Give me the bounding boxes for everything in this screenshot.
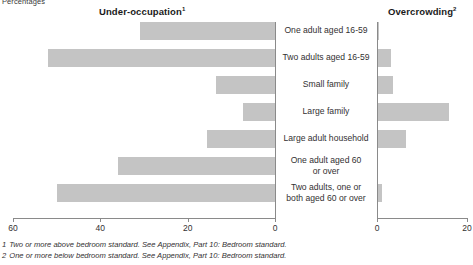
plot-area-under-occupation (13, 22, 275, 218)
axis-left-20-tick-label: 20 (183, 223, 192, 233)
axis-right-0-tick (377, 218, 378, 222)
bar-overcrowding[interactable] (377, 76, 393, 94)
bar-overcrowding[interactable] (377, 49, 391, 67)
footnote: 2One or more below bedroom standard. See… (2, 250, 472, 261)
bar-row-under-occupation (13, 130, 275, 148)
panel-title-under-occupation: Under-occupation1 (99, 6, 185, 17)
bar-under-occupation[interactable] (140, 22, 275, 40)
bar-row-under-occupation (13, 184, 275, 202)
axis-left-40-tick-label: 40 (96, 223, 105, 233)
bar-row-overcrowding (377, 130, 467, 148)
bar-overcrowding[interactable] (377, 130, 406, 148)
baseline-right (377, 22, 378, 219)
category-label: One adult aged 16-59 (275, 25, 377, 36)
footnotes: 1Two or more above bedroom standard. See… (2, 239, 472, 261)
category-label: Large family (275, 106, 377, 117)
unit-label: Percentages (2, 0, 45, 6)
panel-title-right-text: Overcrowding (388, 6, 453, 17)
bar-under-occupation[interactable] (118, 157, 275, 175)
chart-canvas: Percentages Under-occupation1 Overcrowdi… (0, 0, 473, 265)
bar-under-occupation[interactable] (216, 76, 275, 94)
category-label-column: One adult aged 16-59Two adults aged 16-5… (275, 22, 377, 218)
bar-row-under-occupation (13, 76, 275, 94)
axis-right-0-tick-label: 0 (375, 223, 380, 233)
bar-row-overcrowding (377, 76, 467, 94)
bar-row-overcrowding (377, 184, 467, 202)
footnote-number: 2 (2, 251, 6, 260)
footnote-text: One or more below bedroom standard. See … (9, 251, 286, 260)
axis-right-20-tick-label: 20 (462, 223, 471, 233)
bar-row-under-occupation (13, 103, 275, 121)
bar-under-occupation[interactable] (207, 130, 275, 148)
axis-left-60-tick-label: 60 (8, 223, 17, 233)
category-label: Two adults aged 16-59 (275, 52, 377, 63)
panel-title-right-superscript: 2 (453, 6, 456, 12)
category-label: One adult aged 60 or over (275, 155, 377, 176)
bar-row-overcrowding (377, 157, 467, 175)
bar-under-occupation[interactable] (57, 184, 275, 202)
baseline-left (275, 22, 276, 219)
category-label: Large adult household (275, 133, 377, 144)
axis-left-40-tick (100, 218, 101, 222)
bar-row-overcrowding (377, 103, 467, 121)
axis-left-60-tick (13, 218, 14, 222)
category-label: Two adults, one or both aged 60 or over (275, 182, 377, 203)
axis-right-20-tick (467, 218, 468, 222)
axis-left-0-tick-label: 0 (273, 223, 278, 233)
bar-under-occupation[interactable] (48, 49, 275, 67)
bar-row-overcrowding (377, 49, 467, 67)
bar-overcrowding[interactable] (377, 103, 449, 121)
bar-under-occupation[interactable] (243, 103, 275, 121)
axis-left-20-tick (188, 218, 189, 222)
bar-row-overcrowding (377, 22, 467, 40)
footnote-number: 1 (2, 240, 6, 249)
bar-row-under-occupation (13, 49, 275, 67)
panel-title-overcrowding: Overcrowding2 (388, 6, 457, 17)
category-label: Small family (275, 79, 377, 90)
footnote-text: Two or more above bedroom standard. See … (9, 240, 286, 249)
plot-area-overcrowding (377, 22, 467, 218)
panel-title-left-text: Under-occupation (99, 6, 182, 17)
panel-title-left-superscript: 1 (182, 6, 185, 12)
axis-line-left (13, 218, 276, 219)
footnote: 1Two or more above bedroom standard. See… (2, 239, 472, 250)
bar-row-under-occupation (13, 157, 275, 175)
axis-line-right (377, 218, 467, 219)
axis-left-0-tick (275, 218, 276, 222)
bar-row-under-occupation (13, 22, 275, 40)
